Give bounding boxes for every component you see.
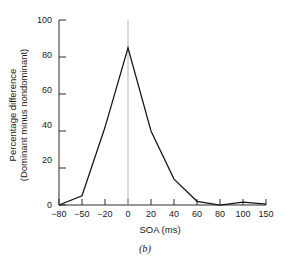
x-axis-ticks [59,199,266,205]
x-tick-label: 0 [125,209,130,219]
y-tick-label: 40 [42,120,52,130]
x-axis-title: SOA (ms) [139,224,180,235]
x-tick-label: 150 [258,209,273,219]
y-tick-labels: 100 80 60 40 20 0 [37,15,52,210]
y-axis-title: Percentage difference (Dominant minus no… [7,49,29,182]
x-tick-labels: −80 −50 −20 0 20 40 60 80 100 150 [51,209,273,219]
y-axis-ticks [59,20,66,205]
y-tick-label: 60 [42,85,52,95]
x-tick-label: −50 [74,209,89,219]
x-tick-label: 40 [169,209,179,219]
x-tick-label: 20 [146,209,156,219]
y-tick-label: 20 [42,155,52,165]
y-axis-title-line2: (Dominant minus nondominant) [18,49,29,182]
y-axis-title-line1: Percentage difference [7,69,18,162]
x-tick-label: 60 [192,209,202,219]
y-tick-label: 80 [42,50,52,60]
x-tick-label: −20 [97,209,112,219]
data-series-line [59,48,266,205]
x-tick-label: 80 [215,209,225,219]
y-tick-label: 100 [37,15,52,25]
x-tick-label: 100 [235,209,250,219]
chart-svg: Percentage difference (Dominant minus no… [0,0,290,259]
figure-panel: Percentage difference (Dominant minus no… [0,0,290,259]
x-tick-label: −80 [51,209,66,219]
figure-caption: (b) [139,243,152,255]
